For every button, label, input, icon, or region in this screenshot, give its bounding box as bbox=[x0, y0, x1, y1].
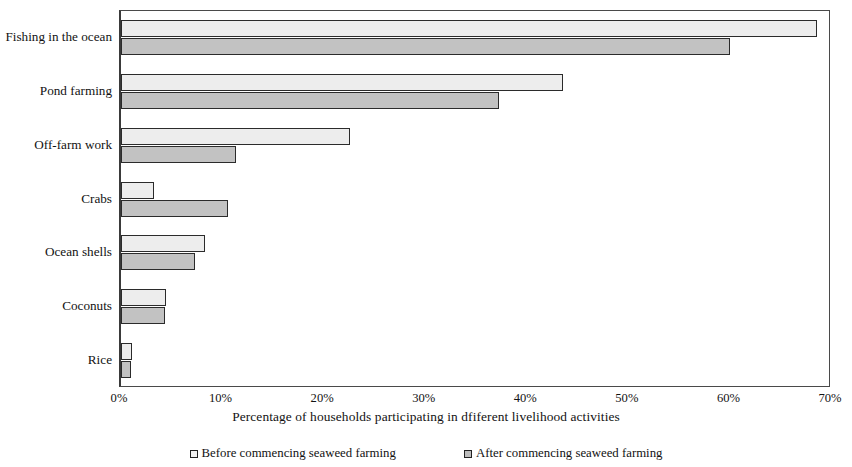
category-label: Pond farming bbox=[0, 84, 112, 97]
x-tick-label: 40% bbox=[490, 391, 560, 406]
bar-before bbox=[121, 289, 166, 306]
legend-entry: After commencing seaweed farming bbox=[464, 446, 663, 461]
bar-after bbox=[121, 92, 499, 109]
chart-legend: Before commencing seaweed farmingAfter c… bbox=[0, 446, 852, 461]
x-tick-label: 50% bbox=[592, 391, 662, 406]
x-tick-label: 20% bbox=[287, 391, 357, 406]
x-axis-title: Percentage of households participating i… bbox=[0, 409, 852, 425]
bar-before bbox=[121, 343, 132, 360]
plot-area bbox=[119, 10, 830, 387]
x-tick-label: 60% bbox=[693, 391, 763, 406]
category-label: Fishing in the ocean bbox=[0, 30, 112, 43]
x-tick-label: 30% bbox=[389, 391, 459, 406]
legend-label: After commencing seaweed farming bbox=[476, 446, 663, 461]
category-label: Rice bbox=[0, 353, 112, 366]
bar-group bbox=[121, 280, 829, 334]
category-label: Crabs bbox=[0, 192, 112, 205]
bar-chart-figure: Fishing in the oceanPond farmingOff-farm… bbox=[0, 0, 852, 467]
bar-before bbox=[121, 182, 154, 199]
x-tick-label: 70% bbox=[795, 391, 852, 406]
bar-before bbox=[121, 74, 563, 91]
bar-group bbox=[121, 334, 829, 388]
bars-container bbox=[121, 11, 829, 386]
bar-group bbox=[121, 65, 829, 119]
bar-before bbox=[121, 128, 350, 145]
category-label: Ocean shells bbox=[0, 245, 112, 258]
bar-after bbox=[121, 200, 228, 217]
x-tick-label: 0% bbox=[84, 391, 154, 406]
bar-before bbox=[121, 20, 817, 37]
bar-after bbox=[121, 38, 730, 55]
bar-group bbox=[121, 173, 829, 227]
bar-group bbox=[121, 119, 829, 173]
bar-after bbox=[121, 361, 131, 378]
bar-group bbox=[121, 11, 829, 65]
legend-entry: Before commencing seaweed farming bbox=[190, 446, 396, 461]
bar-after bbox=[121, 146, 236, 163]
category-label: Coconuts bbox=[0, 299, 112, 312]
bar-after bbox=[121, 307, 165, 324]
bar-before bbox=[121, 235, 205, 252]
legend-label: Before commencing seaweed farming bbox=[202, 446, 396, 461]
legend-swatch-icon bbox=[190, 450, 198, 458]
bar-after bbox=[121, 253, 195, 270]
x-tick-label: 10% bbox=[186, 391, 256, 406]
category-label: Off-farm work bbox=[0, 138, 112, 151]
bar-group bbox=[121, 226, 829, 280]
legend-swatch-icon bbox=[464, 450, 472, 458]
